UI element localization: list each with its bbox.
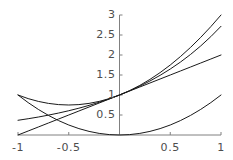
y-axis-tick-label: 0.5	[96, 109, 115, 120]
x-axis-tick-label: 0.5	[150, 142, 190, 153]
y-axis-tick-label: 1.5	[96, 69, 115, 80]
plot-canvas	[0, 0, 233, 160]
y-axis-tick-label: 2	[108, 49, 116, 60]
y-axis-tick-label: 2.5	[96, 29, 115, 40]
x-axis-tick-label: -0.5	[49, 142, 89, 153]
plot-figure: 0.511.522.53-1-0.50.51	[0, 0, 233, 160]
x-axis-tick-label: 1	[201, 142, 233, 153]
y-axis-tick-label: 1	[108, 89, 116, 100]
x-axis-tick-label: -1	[0, 142, 38, 153]
y-axis-tick-label: 3	[108, 9, 116, 20]
